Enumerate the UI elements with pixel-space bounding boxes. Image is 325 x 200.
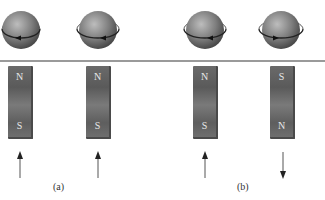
magnet-top-pole: N bbox=[193, 72, 216, 82]
panel-label-a: (a) bbox=[53, 181, 64, 192]
magnet-bottom-pole: S bbox=[8, 121, 31, 131]
bar-magnet-1: N S bbox=[8, 66, 33, 139]
magnet-bottom-pole: N bbox=[270, 121, 293, 131]
bar-magnet-3: N S bbox=[193, 66, 218, 139]
magnet-top-pole: N bbox=[86, 72, 109, 82]
panel-label-b: (b) bbox=[237, 181, 249, 192]
magnet-top-pole: S bbox=[270, 72, 293, 82]
magnet-bottom-pole: S bbox=[193, 121, 216, 131]
bar-magnet-4: S N bbox=[270, 66, 295, 139]
bar-magnet-2: N S bbox=[86, 66, 111, 139]
spinning-sphere-icon bbox=[253, 7, 309, 55]
spinning-sphere-icon bbox=[177, 7, 233, 55]
magnet-top-pole: N bbox=[8, 72, 31, 82]
spinning-sphere-3 bbox=[177, 7, 233, 55]
field-arrow-4 bbox=[278, 151, 288, 179]
field-arrow-1 bbox=[15, 151, 25, 179]
arrow-up-icon bbox=[93, 151, 103, 179]
field-arrow-3 bbox=[200, 151, 210, 179]
divider-line bbox=[0, 60, 325, 62]
arrow-up-icon bbox=[200, 151, 210, 179]
spinning-sphere-1 bbox=[0, 7, 49, 55]
spinning-sphere-4 bbox=[253, 7, 309, 55]
arrow-up-icon bbox=[15, 151, 25, 179]
spin-magnet-figure: N S N S N S S N (a) bbox=[0, 0, 325, 200]
spinning-sphere-2 bbox=[70, 7, 126, 55]
spinning-sphere-icon bbox=[0, 7, 49, 55]
spinning-sphere-icon bbox=[70, 7, 126, 55]
field-arrow-2 bbox=[93, 151, 103, 179]
magnet-bottom-pole: S bbox=[86, 121, 109, 131]
arrow-down-icon bbox=[278, 151, 288, 179]
